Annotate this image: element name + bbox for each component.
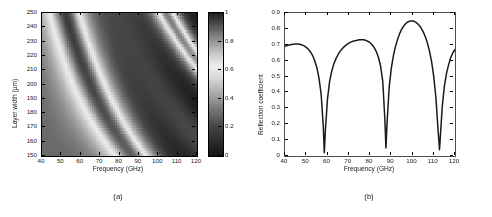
x-tick-mark bbox=[99, 152, 100, 155]
y-tick-mark-right bbox=[192, 112, 195, 113]
x-tick-label: 40 bbox=[281, 158, 288, 164]
panel-b-line-plot: 405060708090100110120 00.10.20.30.40.50.… bbox=[246, 0, 492, 217]
y-tick-mark bbox=[42, 55, 45, 56]
colorbar-tick-label: 0.2 bbox=[225, 123, 234, 129]
x-tick-label: 120 bbox=[191, 158, 201, 164]
y-tick-label: 0.1 bbox=[246, 136, 280, 142]
y-tick-mark bbox=[42, 141, 45, 142]
y-tick-label: 0.6 bbox=[246, 57, 280, 63]
reflection-coefficient-line bbox=[285, 21, 455, 153]
y-tick-mark-right bbox=[192, 26, 195, 27]
y-tick-mark bbox=[285, 123, 288, 124]
y-tick-mark-right bbox=[192, 12, 195, 13]
x-tick-mark-top bbox=[80, 12, 81, 15]
x-tick-mark-top bbox=[157, 12, 158, 15]
x-tick-label: 50 bbox=[57, 158, 64, 164]
panel-b-caption: (b) bbox=[364, 192, 373, 201]
heatmap-plot-area bbox=[41, 12, 198, 157]
x-tick-mark bbox=[454, 152, 455, 155]
x-tick-label: 110 bbox=[172, 158, 182, 164]
y-tick-mark-right bbox=[450, 44, 453, 45]
y-tick-mark-right bbox=[192, 55, 195, 56]
panel-a-heatmap: 405060708090100110120 150160170180190200… bbox=[0, 0, 246, 217]
x-tick-mark-top bbox=[99, 12, 100, 15]
y-tick-mark-right bbox=[192, 98, 195, 99]
colorbar-tick-mark bbox=[218, 126, 221, 127]
x-tick-label: 70 bbox=[96, 158, 103, 164]
y-tick-mark bbox=[42, 112, 45, 113]
y-tick-mark-right bbox=[192, 69, 195, 70]
x-tick-mark bbox=[177, 152, 178, 155]
y-tick-label: 0.7 bbox=[246, 41, 280, 47]
x-tick-mark bbox=[80, 152, 81, 155]
x-tick-label: 90 bbox=[134, 158, 141, 164]
line-plot-y-axis-label: Reflection coefficient bbox=[258, 74, 265, 135]
y-tick-mark bbox=[285, 60, 288, 61]
x-tick-label: 90 bbox=[387, 158, 394, 164]
y-tick-mark bbox=[285, 91, 288, 92]
y-tick-mark bbox=[285, 76, 288, 77]
x-tick-mark-top bbox=[327, 12, 328, 15]
y-tick-mark-right bbox=[192, 84, 195, 85]
y-tick-mark bbox=[285, 28, 288, 29]
y-tick-mark bbox=[285, 107, 288, 108]
line-plot-area bbox=[284, 12, 456, 157]
y-tick-label: 150 bbox=[0, 152, 37, 158]
y-tick-mark bbox=[42, 84, 45, 85]
heatmap-y-axis-label: Layer width (µm) bbox=[12, 79, 19, 128]
colorbar-tick-mark bbox=[218, 41, 221, 42]
x-tick-mark-top bbox=[60, 12, 61, 15]
y-tick-mark bbox=[42, 126, 45, 127]
x-tick-mark bbox=[157, 152, 158, 155]
x-tick-mark-top bbox=[390, 12, 391, 15]
y-tick-mark bbox=[42, 155, 45, 156]
colorbar-tick-label: 1 bbox=[225, 9, 228, 15]
reflection-coefficient-curve-svg bbox=[285, 13, 455, 156]
heatmap-x-axis-label: Frequency (GHz) bbox=[93, 166, 144, 173]
y-tick-mark-right bbox=[450, 155, 453, 156]
colorbar-tick-label: 0 bbox=[225, 152, 228, 158]
x-tick-mark-top bbox=[348, 12, 349, 15]
y-tick-mark-right bbox=[192, 126, 195, 127]
y-tick-mark-right bbox=[192, 141, 195, 142]
line-plot-x-axis-label: Frequency (GHz) bbox=[344, 166, 395, 173]
x-tick-mark bbox=[138, 152, 139, 155]
colorbar-tick-mark bbox=[218, 98, 221, 99]
x-tick-mark bbox=[369, 152, 370, 155]
y-tick-label: 160 bbox=[0, 138, 37, 144]
heatmap-image bbox=[42, 13, 197, 156]
y-tick-mark-right bbox=[192, 155, 195, 156]
x-tick-mark bbox=[327, 152, 328, 155]
x-tick-mark bbox=[433, 152, 434, 155]
y-tick-mark-right bbox=[450, 76, 453, 77]
x-tick-label: 80 bbox=[115, 158, 122, 164]
y-tick-mark bbox=[42, 98, 45, 99]
x-tick-mark-top bbox=[412, 12, 413, 15]
x-tick-label: 120 bbox=[449, 158, 459, 164]
y-tick-label: 250 bbox=[0, 9, 37, 15]
colorbar-tick-mark bbox=[218, 69, 221, 70]
y-tick-mark-right bbox=[450, 12, 453, 13]
y-tick-mark-right bbox=[450, 60, 453, 61]
y-tick-mark-right bbox=[450, 28, 453, 29]
x-tick-mark-top bbox=[454, 12, 455, 15]
x-tick-mark bbox=[60, 152, 61, 155]
x-tick-mark-top bbox=[369, 12, 370, 15]
y-tick-mark bbox=[285, 12, 288, 13]
x-tick-mark-top bbox=[119, 12, 120, 15]
x-tick-label: 110 bbox=[428, 158, 438, 164]
y-tick-mark bbox=[42, 26, 45, 27]
y-tick-mark-right bbox=[450, 139, 453, 140]
colorbar-tick-label: 0.8 bbox=[225, 37, 234, 43]
x-tick-label: 60 bbox=[76, 158, 83, 164]
x-tick-label: 100 bbox=[152, 158, 162, 164]
y-tick-label: 0.9 bbox=[246, 9, 280, 15]
y-tick-label: 220 bbox=[0, 52, 37, 58]
y-tick-mark bbox=[42, 69, 45, 70]
x-tick-label: 70 bbox=[344, 158, 351, 164]
x-tick-mark-top bbox=[196, 12, 197, 15]
colorbar-tick-label: 0.6 bbox=[225, 66, 234, 72]
x-tick-mark bbox=[412, 152, 413, 155]
x-tick-mark bbox=[119, 152, 120, 155]
x-tick-label: 60 bbox=[323, 158, 330, 164]
